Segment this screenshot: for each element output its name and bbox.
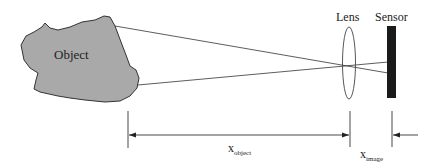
x-image-subscript: image [366,155,383,163]
x-image-label: ximage [360,147,383,163]
x-object-label: xobject [228,141,251,157]
diagram-canvas [0,0,438,168]
lens-shape [343,27,356,99]
sensor-label: Sensor [375,10,408,25]
arrowhead-left-icon [129,133,136,138]
object-label: Object [54,47,89,63]
sensor-shape [387,26,396,98]
arrowhead-image-icon [393,133,400,138]
arrowhead-right-icon [342,133,349,138]
ray-bottom [138,62,388,85]
thin-lens-diagram: Object Lens Sensor xobject ximage [0,0,438,168]
x-object-subscript: object [234,149,251,157]
lens-label: Lens [336,10,359,25]
